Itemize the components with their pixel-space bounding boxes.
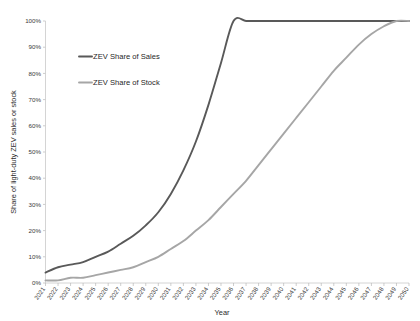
x-tick-label: 2038	[246, 285, 260, 301]
x-tick-label: 2033	[183, 285, 197, 301]
legend-item-zev-share-of-stock: ZEV Share of Stock	[79, 78, 160, 87]
y-tick-label: 40%	[29, 174, 42, 181]
x-tick-label: 2041	[283, 285, 297, 301]
x-axis-tick-marks	[46, 283, 410, 286]
x-tick-label: 2023	[58, 285, 72, 301]
x-axis-title: Year	[215, 308, 230, 317]
y-tick-label: 10%	[29, 253, 42, 260]
x-tick-label: 2022	[45, 285, 59, 301]
x-tick-label: 2032	[171, 285, 185, 301]
y-tick-label: 70%	[29, 96, 42, 103]
x-tick-label: 2035	[208, 285, 222, 301]
x-tick-label: 2024	[70, 285, 84, 301]
x-tick-label: 2034	[196, 285, 210, 301]
x-tick-label: 2031	[158, 285, 172, 301]
x-tick-label: 2028	[120, 285, 134, 301]
x-tick-label: 2045	[334, 285, 348, 301]
x-tick-label: 2030	[145, 285, 159, 301]
y-tick-label: 80%	[29, 70, 42, 77]
zev-share-line-chart: 0%10%20%30%40%50%60%70%80%90%100% 202120…	[0, 0, 420, 321]
y-axis-tick-labels: 0%10%20%30%40%50%60%70%80%90%100%	[25, 17, 41, 286]
chart-container: 0%10%20%30%40%50%60%70%80%90%100% 202120…	[0, 0, 420, 321]
x-tick-label: 2043	[308, 285, 322, 301]
x-tick-label: 2026	[95, 285, 109, 301]
x-tick-label: 2027	[108, 285, 122, 301]
legend-label-stock: ZEV Share of Stock	[93, 78, 160, 87]
y-tick-label: 50%	[29, 148, 42, 155]
y-tick-label: 30%	[29, 201, 42, 208]
x-tick-label: 2049	[384, 285, 398, 301]
x-tick-label: 2036	[221, 285, 235, 301]
x-tick-label: 2029	[133, 285, 147, 301]
y-tick-label: 100%	[25, 17, 41, 24]
x-tick-label: 2048	[371, 285, 385, 301]
x-tick-label: 2047	[359, 285, 373, 301]
x-tick-label: 2042	[296, 285, 310, 301]
x-tick-label: 2037	[233, 285, 247, 301]
x-tick-label: 2039	[258, 285, 272, 301]
x-tick-label: 2025	[83, 285, 97, 301]
x-tick-label: 2046	[346, 285, 360, 301]
y-tick-label: 0%	[32, 279, 41, 286]
y-tick-label: 20%	[29, 227, 42, 234]
legend-label-sales: ZEV Share of Sales	[93, 52, 160, 61]
x-tick-label: 2044	[321, 285, 335, 301]
legend-item-zev-share-of-sales: ZEV Share of Sales	[79, 52, 160, 61]
x-tick-label: 2040	[271, 285, 285, 301]
y-tick-label: 90%	[29, 43, 42, 50]
x-tick-label: 2050	[396, 285, 410, 301]
y-tick-label: 60%	[29, 122, 42, 129]
legend: ZEV Share of Sales ZEV Share of Stock	[79, 52, 160, 87]
y-axis-title: Share of light-duty ZEV sales or stock	[9, 90, 18, 214]
x-axis-tick-labels: 2021202220232024202520262027202820292030…	[33, 285, 410, 301]
x-tick-label: 2021	[33, 285, 47, 301]
